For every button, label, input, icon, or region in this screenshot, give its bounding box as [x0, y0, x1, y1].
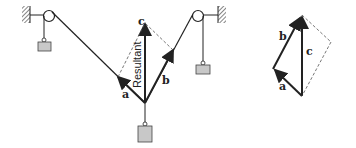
- weight-left: [38, 38, 51, 51]
- diagram-canvas: c a b Resultant b c a: [0, 0, 356, 148]
- triangle-vector-b: [273, 18, 300, 69]
- triangle-label-a: a: [279, 80, 286, 93]
- triangle-label-c: c: [306, 45, 313, 58]
- label-resultant: Resultant: [131, 42, 143, 88]
- label-b: b: [162, 74, 170, 87]
- wall-left: [22, 6, 44, 23]
- weight-bottom: [138, 103, 152, 142]
- label-c: c: [138, 15, 145, 28]
- dashed-line-2: [145, 23, 173, 50]
- triangle-label-b: b: [279, 30, 287, 43]
- pulley-left: [44, 11, 55, 39]
- triangle-dashed-1: [302, 15, 331, 42]
- wall-right: [203, 6, 226, 23]
- pulley-right: [193, 11, 204, 62]
- label-a: a: [122, 88, 129, 101]
- weight-right: [196, 61, 210, 74]
